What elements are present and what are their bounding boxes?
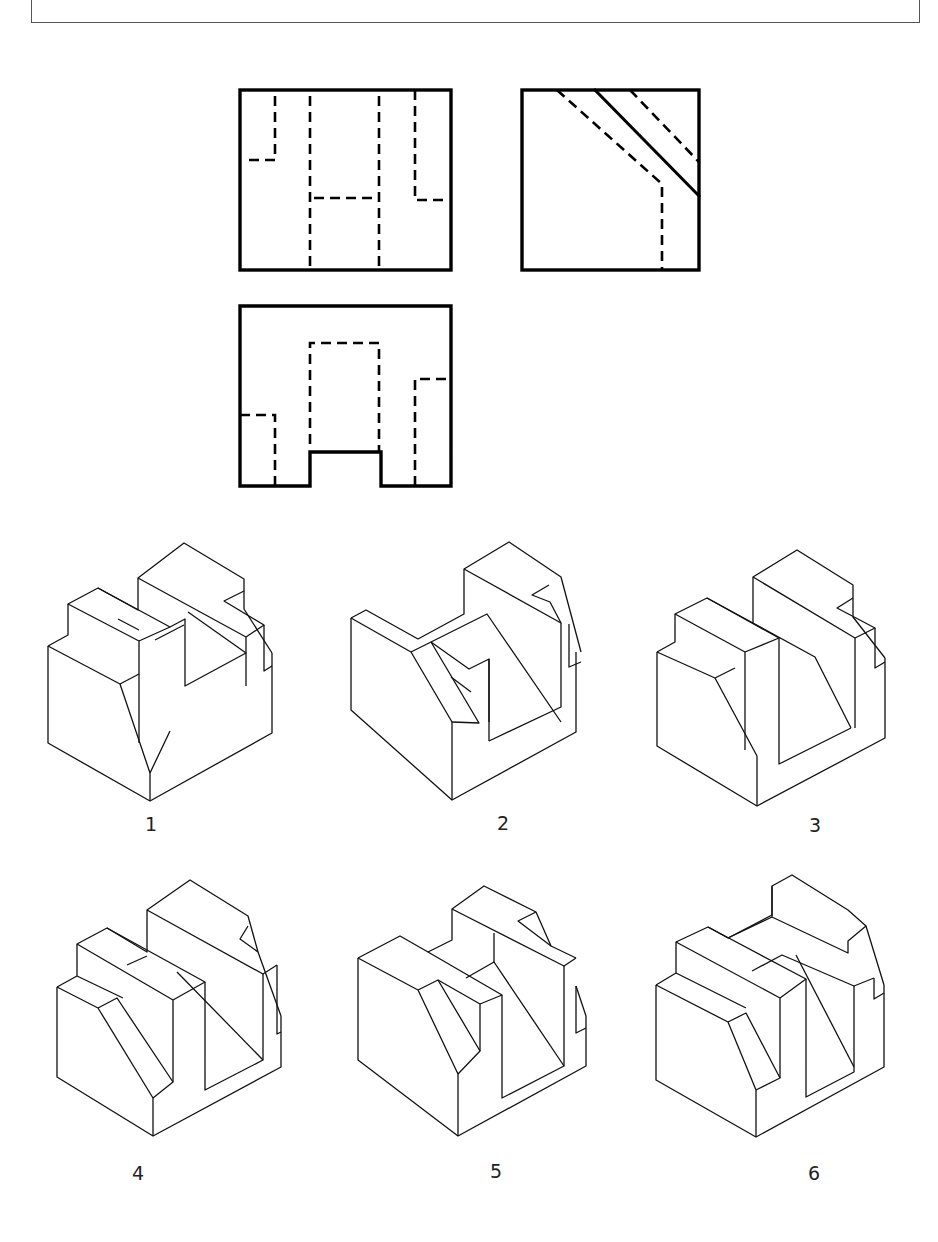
option-5-drawing <box>356 878 596 1148</box>
side-view-drawing <box>520 88 702 274</box>
option-5-label: 5 <box>481 1160 511 1182</box>
plan-view-drawing <box>238 304 454 494</box>
option-6-drawing <box>654 875 894 1145</box>
option-1-drawing <box>46 543 286 803</box>
option-3-label: 3 <box>800 814 830 836</box>
option-4[interactable]: 4 <box>55 880 295 1150</box>
plan-view <box>238 304 454 494</box>
option-1-label: 1 <box>136 813 166 835</box>
question-frame <box>31 0 920 23</box>
option-2-drawing <box>349 542 589 802</box>
option-2[interactable]: 2 <box>349 542 589 802</box>
option-6-label: 6 <box>799 1162 829 1184</box>
front-view-drawing <box>238 88 454 274</box>
option-3-drawing <box>655 550 895 810</box>
option-6[interactable]: 6 <box>654 875 894 1145</box>
option-1[interactable]: 1 <box>46 543 286 803</box>
option-3[interactable]: 3 <box>655 550 895 810</box>
option-4-drawing <box>55 880 295 1150</box>
front-view <box>238 88 454 274</box>
side-view <box>520 88 702 274</box>
option-4-label: 4 <box>123 1162 153 1184</box>
option-5[interactable]: 5 <box>356 878 596 1148</box>
option-2-label: 2 <box>488 812 518 834</box>
